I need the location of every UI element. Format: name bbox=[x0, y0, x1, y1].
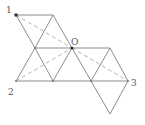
edge-1-b bbox=[16, 15, 35, 48]
edge-a-b bbox=[35, 15, 53, 48]
label-3: 3 bbox=[131, 78, 137, 88]
edge-a-o bbox=[53, 15, 72, 48]
diagram-canvas: 1 O 2 3 bbox=[0, 0, 145, 125]
solid-edges bbox=[16, 15, 128, 114]
point-d bbox=[52, 80, 54, 82]
edge-o-e bbox=[72, 48, 91, 81]
point-3 bbox=[127, 80, 129, 82]
edge-b-d bbox=[35, 48, 53, 81]
label-1: 1 bbox=[6, 5, 12, 15]
point-e bbox=[90, 80, 92, 82]
edge-e-f bbox=[91, 81, 110, 114]
label-o: O bbox=[71, 37, 78, 47]
edge-c-3 bbox=[110, 48, 128, 81]
dashed-o-3 bbox=[72, 48, 128, 81]
point-1 bbox=[14, 13, 18, 17]
point-b bbox=[34, 47, 36, 49]
edge-b-2 bbox=[16, 48, 35, 81]
edge-o-d bbox=[53, 48, 72, 81]
label-2: 2 bbox=[8, 87, 14, 97]
triangle-net-diagram: 1 O 2 3 bbox=[0, 0, 145, 125]
edge-3-f bbox=[110, 81, 128, 114]
edge-c-e bbox=[91, 48, 110, 81]
point-2 bbox=[15, 80, 17, 82]
